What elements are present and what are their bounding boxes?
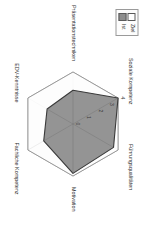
axis-label-1: Motivation bbox=[70, 187, 75, 212]
axis-label-5: Soziale Kompetenz bbox=[126, 58, 131, 104]
tick-label-0: 0 bbox=[74, 123, 79, 126]
axis-label-4: Präsentationstechniken bbox=[70, 5, 75, 61]
rotated-chart-canvas: Ziel Ist FührungsqualitätenMotivationFac… bbox=[0, 0, 145, 242]
axis-label-0: Führungsqualitäten bbox=[126, 144, 131, 190]
axis-label-3: EDV-Kenntnisse bbox=[13, 63, 18, 102]
tick-label-1: 1 bbox=[85, 116, 90, 119]
chart-figure: Ziel Ist FührungsqualitätenMotivationFac… bbox=[0, 0, 145, 242]
axis-label-2: Fachliche Kompetenz bbox=[13, 143, 18, 195]
tick-label-4: 4 bbox=[119, 97, 124, 100]
tick-label-3: 3 bbox=[108, 103, 113, 106]
tick-label-2: 2 bbox=[97, 110, 102, 113]
